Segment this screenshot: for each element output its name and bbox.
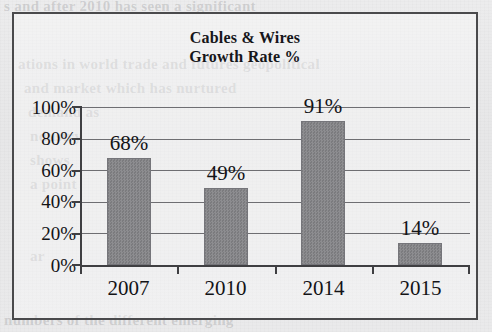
bar-value-label-2007: 68% <box>74 131 184 156</box>
x-category-label-2014: 2014 <box>275 276 372 301</box>
x-tick-mark <box>372 265 374 274</box>
bar-2014 <box>301 121 345 265</box>
bar-value-label-2014: 91% <box>268 94 378 119</box>
bar-2015 <box>398 243 442 265</box>
bar-value-label-2010: 49% <box>171 161 281 186</box>
bar-value-label-2015: 14% <box>365 216 475 241</box>
chart-title: Cables & Wires Growth Rate % <box>14 28 476 66</box>
x-tick-mark <box>80 265 82 274</box>
bar-2010 <box>204 188 248 265</box>
x-tick-mark <box>468 265 470 274</box>
x-category-label-2007: 2007 <box>80 276 177 301</box>
y-tick-label: 80% <box>6 129 76 148</box>
x-category-label-2010: 2010 <box>177 276 274 301</box>
x-tick-mark <box>177 265 179 274</box>
bar-2007 <box>107 158 151 265</box>
chart-title-line-1: Cables & Wires <box>14 28 476 47</box>
y-tick-label: 100% <box>6 98 76 117</box>
y-tick-label: 20% <box>6 224 76 243</box>
scanned-page: s and after 2010 has seen a significant … <box>0 0 492 332</box>
y-tick-label: 0% <box>6 256 76 275</box>
y-tick-label: 40% <box>6 192 76 211</box>
y-axis-labels: 100% 80% 60% 40% 20% 0% <box>0 0 76 332</box>
x-tick-mark <box>275 265 277 274</box>
chart-title-line-2: Growth Rate % <box>14 47 476 66</box>
y-tick-label: 60% <box>6 161 76 180</box>
x-category-label-2015: 2015 <box>372 276 469 301</box>
